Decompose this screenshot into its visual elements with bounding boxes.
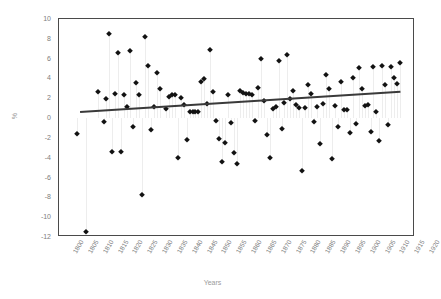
data-point bbox=[311, 119, 317, 125]
drop-line bbox=[290, 99, 291, 118]
data-point bbox=[278, 126, 284, 132]
drop-line bbox=[258, 88, 259, 118]
drop-line bbox=[225, 118, 226, 143]
data-point bbox=[329, 156, 335, 162]
y-tick-label: 0 bbox=[25, 114, 51, 121]
y-tick-label: 4 bbox=[25, 74, 51, 81]
x-tick-label: 1800 bbox=[72, 239, 85, 255]
drop-line bbox=[279, 61, 280, 118]
data-point bbox=[290, 88, 296, 94]
drop-line bbox=[222, 118, 223, 162]
x-tick-label: 1835 bbox=[176, 239, 189, 255]
y-tick-label: 8 bbox=[25, 34, 51, 41]
data-point bbox=[335, 124, 341, 130]
x-tick-label: 1825 bbox=[146, 239, 159, 255]
x-tick-label: 1815 bbox=[117, 239, 130, 255]
drop-line bbox=[234, 118, 235, 153]
data-point bbox=[388, 63, 394, 69]
data-point bbox=[267, 155, 273, 161]
y-tick-label: 10 bbox=[25, 15, 51, 22]
x-tick-label: 1855 bbox=[235, 239, 248, 255]
x-tick-label: 1900 bbox=[369, 239, 382, 255]
data-point bbox=[142, 34, 148, 40]
drop-line bbox=[109, 34, 110, 118]
data-point bbox=[323, 72, 329, 78]
data-point bbox=[275, 58, 281, 64]
x-tick-label: 1885 bbox=[324, 239, 337, 255]
x-tick-label: 1880 bbox=[310, 239, 323, 255]
x-tick-label: 1850 bbox=[221, 239, 234, 255]
y-tick-label: 6 bbox=[25, 54, 51, 61]
data-point bbox=[121, 92, 127, 98]
data-point bbox=[305, 82, 311, 88]
data-point bbox=[139, 192, 145, 198]
data-point bbox=[130, 124, 136, 130]
data-point bbox=[109, 149, 115, 155]
data-point bbox=[284, 52, 290, 58]
drop-line bbox=[249, 94, 250, 118]
data-point bbox=[83, 229, 89, 235]
x-tick-label: 1895 bbox=[354, 239, 367, 255]
data-point bbox=[207, 47, 213, 53]
drop-line bbox=[237, 118, 238, 164]
x-tick-label: 1910 bbox=[399, 239, 412, 255]
data-point bbox=[338, 79, 344, 85]
x-tick-label: 1810 bbox=[102, 239, 115, 255]
drop-line bbox=[353, 78, 354, 118]
data-point bbox=[317, 141, 323, 147]
drop-line bbox=[115, 94, 116, 118]
drop-line bbox=[270, 118, 271, 158]
y-axis-ticks: 1086420-2-4-6-8-10-12 bbox=[26, 18, 54, 236]
data-point bbox=[379, 62, 385, 68]
x-tick-label: 1920 bbox=[428, 239, 441, 255]
x-axis-ticks: 1800180518101815182018251830183518401845… bbox=[58, 239, 414, 279]
y-tick-label: -8 bbox=[25, 193, 51, 200]
data-point bbox=[332, 103, 338, 109]
data-point bbox=[133, 80, 139, 86]
drop-line bbox=[160, 89, 161, 118]
data-point bbox=[148, 127, 154, 133]
data-point bbox=[314, 104, 320, 110]
drop-line bbox=[210, 50, 211, 118]
x-tick-label: 1830 bbox=[161, 239, 174, 255]
y-tick-label: -12 bbox=[25, 233, 51, 240]
drop-line bbox=[148, 66, 149, 119]
y-tick-label: -2 bbox=[25, 133, 51, 140]
data-point bbox=[154, 69, 160, 75]
data-point bbox=[350, 75, 356, 81]
drop-line bbox=[385, 85, 386, 118]
drop-line bbox=[261, 59, 262, 118]
x-tick-label: 1845 bbox=[206, 239, 219, 255]
drop-line bbox=[243, 93, 244, 118]
x-tick-label: 1820 bbox=[132, 239, 145, 255]
data-point bbox=[252, 118, 258, 124]
drop-line bbox=[136, 83, 137, 118]
drop-line bbox=[86, 118, 87, 232]
data-point bbox=[94, 89, 100, 95]
drop-line bbox=[252, 95, 253, 118]
data-point bbox=[347, 130, 353, 136]
drop-line bbox=[320, 118, 321, 144]
x-tick-label: 1805 bbox=[87, 239, 100, 255]
data-point bbox=[299, 167, 305, 173]
data-point bbox=[183, 137, 189, 143]
data-point bbox=[118, 149, 124, 155]
data-point bbox=[74, 131, 80, 137]
data-point bbox=[373, 109, 379, 115]
drop-line bbox=[204, 79, 205, 118]
drop-line bbox=[287, 55, 288, 118]
drop-line bbox=[142, 118, 143, 195]
data-point bbox=[234, 161, 240, 167]
x-tick-label: 1870 bbox=[280, 239, 293, 255]
data-point bbox=[225, 92, 231, 98]
x-tick-label: 1890 bbox=[339, 239, 352, 255]
drop-line bbox=[302, 118, 303, 171]
plot-area bbox=[58, 18, 414, 236]
x-tick-label: 1860 bbox=[250, 239, 263, 255]
drop-line bbox=[98, 92, 99, 118]
y-tick-label: 2 bbox=[25, 94, 51, 101]
x-tick-label: 1865 bbox=[265, 239, 278, 255]
x-tick-label: 1875 bbox=[295, 239, 308, 255]
y-tick-label: -10 bbox=[25, 213, 51, 220]
drop-line bbox=[178, 118, 179, 158]
